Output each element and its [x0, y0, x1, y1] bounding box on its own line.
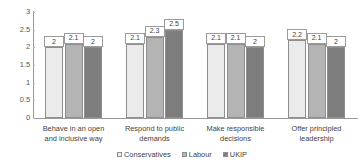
y-axis-tick-label: 0: [4, 114, 30, 122]
bar-value-label: 2.1: [206, 33, 226, 44]
x-axis-category-label: Make responsibledecisions: [195, 124, 276, 143]
category-label-line: Offer principled: [276, 124, 357, 134]
bar: [207, 44, 225, 118]
bar-chart: 32.521.510.50 22.122.12.32.52.12.122.22.…: [0, 0, 364, 167]
category-label-line: Behave in an open: [33, 124, 114, 134]
category-label-line: decisions: [195, 134, 276, 144]
legend-item[interactable]: UKIP: [223, 150, 247, 159]
bar-value-label: 2.3: [145, 26, 165, 37]
legend-label: Labour: [189, 150, 212, 159]
bar: [327, 47, 345, 118]
chart-legend: ConservativesLabourUKIP: [0, 150, 364, 159]
y-axis-tick-mark: [33, 118, 35, 119]
legend-label: UKIP: [230, 150, 247, 159]
y-axis-tick-mark: [33, 47, 35, 48]
legend-item[interactable]: Labour: [182, 150, 212, 159]
category-label-line: Make responsible: [195, 124, 276, 134]
legend-swatch-icon: [182, 152, 187, 157]
bar: [146, 37, 164, 118]
bar: [227, 44, 245, 118]
y-axis-tick-label: 1.5: [4, 61, 30, 69]
bar: [45, 47, 63, 118]
bar-value-label: 2: [44, 36, 64, 47]
category-label-line: leadership: [276, 134, 357, 144]
y-axis-tick-mark: [33, 30, 35, 31]
legend-item[interactable]: Conservatives: [117, 150, 171, 159]
bar: [65, 44, 83, 118]
bar-value-label: 2.1: [125, 33, 145, 44]
plot-area: 22.122.12.32.52.12.122.22.12: [33, 12, 357, 118]
x-axis-line: [33, 118, 358, 119]
y-axis-tick-label: 1: [4, 79, 30, 87]
bar-value-label: 2.1: [307, 33, 327, 44]
bar: [126, 44, 144, 118]
y-axis-tick-label: 3: [4, 8, 30, 16]
y-axis-tick-mark: [33, 65, 35, 66]
bar-value-label: 2.1: [226, 33, 246, 44]
bar: [165, 30, 183, 118]
bar-value-label: 2.5: [164, 19, 184, 30]
bar: [246, 47, 264, 118]
bar-value-label: 2: [83, 36, 103, 47]
x-axis-category-label: Offer principledleadership: [276, 124, 357, 143]
y-axis-tick-label: 2.5: [4, 26, 30, 34]
y-axis-tick-mark: [33, 83, 35, 84]
y-axis-tick-label: 2: [4, 43, 30, 51]
bar-value-label: 2: [245, 36, 265, 47]
bar-value-label: 2: [326, 36, 346, 47]
bar: [288, 40, 306, 118]
legend-swatch-icon: [223, 152, 228, 157]
legend-label: Conservatives: [124, 150, 171, 159]
y-axis-tick-label: 0.5: [4, 96, 30, 104]
category-label-line: and inclusive way: [33, 134, 114, 144]
y-axis-tick-mark: [33, 12, 35, 13]
bar-value-label: 2.2: [287, 29, 307, 40]
category-label-line: demands: [114, 134, 195, 144]
bar: [308, 44, 326, 118]
bar: [84, 47, 102, 118]
x-axis-category-label: Respond to publicdemands: [114, 124, 195, 143]
legend-swatch-icon: [117, 152, 122, 157]
category-label-line: Respond to public: [114, 124, 195, 134]
bar-value-label: 2.1: [64, 33, 84, 44]
x-axis-category-label: Behave in an openand inclusive way: [33, 124, 114, 143]
y-axis-tick-mark: [33, 100, 35, 101]
y-axis-tick-labels: 32.521.510.50: [0, 0, 30, 167]
